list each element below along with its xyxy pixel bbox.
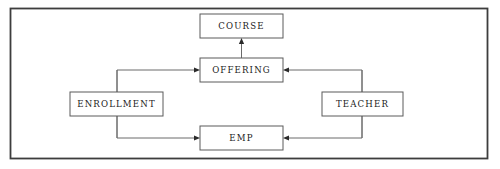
entity-label-emp: EMP [229,133,253,143]
entity-course[interactable]: COURSE [200,14,283,38]
entity-label-teacher: TEACHER [336,99,389,109]
arrow-left-icon-to-emp [283,135,289,140]
arrow-up-icon-to-course [239,38,244,44]
entity-teacher[interactable]: TEACHER [322,92,403,116]
entity-label-enrollment: ENROLLMENT [77,99,156,109]
entity-emp[interactable]: EMP [200,126,283,150]
er-diagram: COURSE OFFERING ENROLLMENT TEACHER EMP [0,0,500,169]
diagram-canvas: COURSE OFFERING ENROLLMENT TEACHER EMP [0,0,500,169]
arrow-left-icon-to-offering [283,67,289,72]
entity-layer: COURSE OFFERING ENROLLMENT TEACHER EMP [70,14,403,150]
entity-enrollment[interactable]: ENROLLMENT [70,92,163,116]
arrow-right-icon-to-emp [194,135,200,140]
entity-label-offering: OFFERING [212,65,271,75]
entity-offering[interactable]: OFFERING [200,58,283,82]
arrow-right-icon-to-offering [194,67,200,72]
entity-label-course: COURSE [218,21,264,31]
connector-layer [117,42,362,138]
